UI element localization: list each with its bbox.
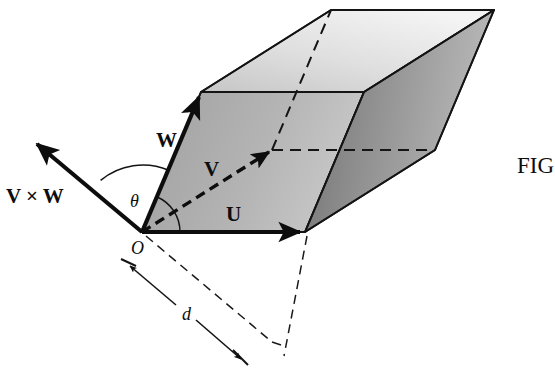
d-arrow-upper [130, 266, 176, 305]
dashed-from-origin [146, 236, 272, 342]
label-vector-u: U [226, 202, 241, 226]
label-cross-product: V × W [6, 184, 64, 208]
label-origin: O [131, 238, 144, 258]
d-tick-end [233, 350, 248, 365]
label-angle-theta: θ [130, 191, 139, 211]
projection-construction [146, 236, 307, 356]
projection-corner-mark [272, 342, 281, 345]
figure-container: V × W W V U θ O d FIG [0, 0, 555, 377]
parallelepiped-solid [142, 10, 494, 232]
theta-arc [101, 165, 169, 180]
dashed-from-u-tip [284, 236, 307, 356]
d-tick-start [121, 259, 136, 266]
d-arrow-lower [196, 320, 241, 359]
vector-geometry-diagram: V × W W V U θ O d FIG [0, 0, 555, 377]
label-vector-v: V [204, 157, 219, 181]
figure-caption-partial: FIG [517, 153, 554, 178]
label-vector-w: W [156, 128, 177, 152]
label-distance-d: d [182, 304, 192, 324]
